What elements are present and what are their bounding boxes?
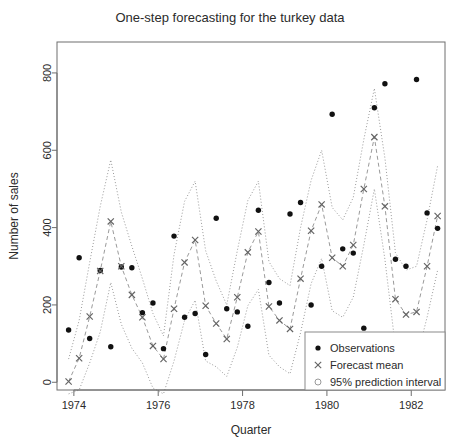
x-axis-tick-label: 1978 bbox=[230, 399, 254, 411]
observation-point bbox=[76, 255, 81, 260]
observation-point bbox=[108, 344, 113, 349]
chart-container: One-step forecasting for the turkey data… bbox=[0, 0, 461, 448]
y-axis-title: Number of sales bbox=[7, 172, 21, 259]
observation-point bbox=[298, 200, 303, 205]
observation-point bbox=[192, 311, 197, 316]
observation-point bbox=[214, 216, 219, 221]
observation-point bbox=[182, 315, 187, 320]
observation-point bbox=[256, 208, 261, 213]
observation-point bbox=[203, 352, 208, 357]
observation-point bbox=[414, 77, 419, 82]
observation-point bbox=[224, 306, 229, 311]
observation-point bbox=[403, 264, 408, 269]
chart-legend: ObservationsForecast mean95% prediction … bbox=[305, 332, 445, 390]
observation-point bbox=[382, 81, 387, 86]
legend-item-label: Observations bbox=[330, 342, 395, 354]
observation-point bbox=[235, 309, 240, 314]
x-axis-tick-label: 1976 bbox=[146, 399, 170, 411]
observation-point bbox=[171, 233, 176, 238]
observation-point bbox=[393, 257, 398, 262]
legend-item: 95% prediction interval bbox=[315, 376, 441, 388]
observation-point bbox=[329, 112, 334, 117]
legend-item-label: 95% prediction interval bbox=[330, 376, 441, 388]
observation-point bbox=[266, 280, 271, 285]
observation-point bbox=[129, 265, 134, 270]
y-axis-tick-label: 200 bbox=[41, 296, 53, 314]
observation-point bbox=[161, 346, 166, 351]
observation-point bbox=[87, 336, 92, 341]
observation-point bbox=[287, 211, 292, 216]
observation-point bbox=[319, 264, 324, 269]
y-axis-tick-label: 0 bbox=[41, 379, 53, 385]
observation-point bbox=[372, 105, 377, 110]
observation-point bbox=[245, 324, 250, 329]
observation-point bbox=[277, 300, 282, 305]
observation-point bbox=[308, 302, 313, 307]
observation-point bbox=[150, 300, 155, 305]
observation-point bbox=[66, 327, 71, 332]
observation-point bbox=[351, 250, 356, 255]
y-axis-tick-label: 600 bbox=[41, 141, 53, 159]
x-axis-title: Quarter bbox=[231, 423, 272, 437]
x-axis-tick-label: 1974 bbox=[62, 399, 86, 411]
observation-point bbox=[340, 246, 345, 251]
chart-title: One-step forecasting for the turkey data bbox=[115, 10, 345, 25]
legend-item-label: Forecast mean bbox=[330, 359, 403, 371]
y-axis-tick-label: 400 bbox=[41, 218, 53, 236]
x-axis-tick-label: 1982 bbox=[399, 399, 423, 411]
observation-point bbox=[424, 210, 429, 215]
observation-point bbox=[361, 325, 366, 330]
forecast-chart: One-step forecasting for the turkey data… bbox=[0, 0, 461, 448]
observation-point bbox=[435, 226, 440, 231]
observation-point bbox=[140, 310, 145, 315]
legend-filled-dot-icon bbox=[315, 345, 320, 350]
y-axis-tick-label: 800 bbox=[41, 64, 53, 82]
x-axis-tick-label: 1980 bbox=[315, 399, 339, 411]
